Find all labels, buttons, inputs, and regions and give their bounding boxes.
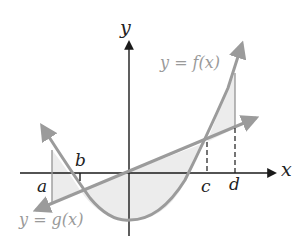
point-a-label: a — [37, 178, 47, 195]
diagram-canvas — [0, 0, 300, 243]
f-function-label: y = f(x) — [160, 55, 220, 71]
point-c-label: c — [201, 178, 211, 195]
area-between-curves-diagram: y x y = f(x) y = g(x) a b c d — [0, 0, 300, 243]
y-axis-label: y — [120, 18, 131, 37]
point-b-label: b — [75, 152, 86, 169]
point-d-label: d — [229, 176, 240, 193]
g-function-label: y = g(x) — [19, 212, 83, 228]
x-axis-label: x — [281, 160, 292, 179]
